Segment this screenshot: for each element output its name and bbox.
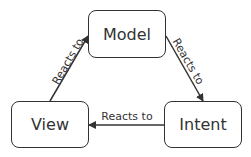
intent-node-label: Intent: [179, 115, 226, 134]
view-node-label: View: [31, 115, 69, 134]
model-node-label: Model: [103, 25, 151, 44]
model-node: Model: [88, 10, 166, 58]
edge-label-intent-view: Reacts to: [92, 110, 162, 123]
view-node: View: [11, 101, 89, 148]
mvi-cycle-diagram: Model View Intent Reacts to Reacts to Re…: [0, 0, 251, 157]
intent-node: Intent: [164, 101, 242, 148]
